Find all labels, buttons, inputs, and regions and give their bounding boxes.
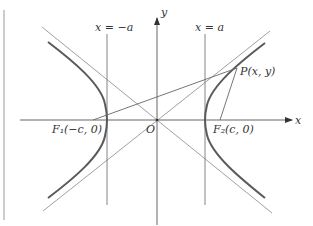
origin-label: O [146, 123, 155, 136]
focal-radius-f2-p [220, 68, 237, 120]
point-p-label: P(x, y) [239, 65, 275, 78]
focal-radius-f1-p [93, 68, 237, 120]
focus-1-label: F₁(−c, 0) [51, 123, 102, 136]
origin-point [156, 119, 159, 122]
hyperbola-diagram: y x O x = −a x = a P(x, y) F₁(−c, 0) F₂(… [0, 0, 313, 226]
y-axis-label: y [160, 6, 168, 19]
line-right-label: x = a [195, 21, 224, 34]
line-left-label: x = −a [95, 21, 133, 34]
focus-2-label: F₂(c, 0) [212, 123, 254, 136]
x-axis-label: x [295, 114, 302, 127]
